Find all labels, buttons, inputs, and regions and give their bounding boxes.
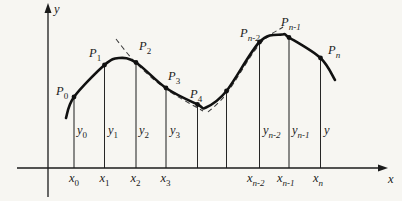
curve-point-dot — [287, 35, 292, 40]
curve-point-dot — [72, 95, 77, 100]
point-label-p_n: Pn — [327, 43, 341, 60]
x-axis-arrow-icon — [378, 165, 388, 172]
curve-point-dot — [164, 86, 169, 91]
ordinate-label-y: y — [322, 123, 330, 137]
point-label-p_n-2: Pn-2 — [239, 26, 260, 43]
curve-point-dot — [102, 63, 107, 68]
curve-point-dot — [224, 89, 229, 94]
x-axis-label: x — [387, 172, 394, 186]
ordinate-label-y_n-1: yn-1 — [290, 123, 310, 140]
function-curve — [66, 34, 335, 118]
x-tick-label-x_n-1: xn-1 — [276, 171, 295, 188]
point-label-p_1: P1 — [88, 46, 101, 63]
y-axis-label: y — [52, 2, 60, 16]
point-label-p_3: P3 — [167, 69, 181, 86]
x-tick-label-x_3: x3 — [160, 171, 172, 188]
curve-point-dot — [134, 60, 139, 65]
x-tick-label-x_0: x0 — [68, 171, 80, 188]
curve-point-dot — [318, 56, 323, 61]
ordinate-label-y_n-2: yn-2 — [261, 123, 281, 140]
x-tick-label-x_1: x1 — [99, 171, 110, 188]
y-axis-arrow-icon — [45, 3, 52, 13]
point-label-p_n-1: Pn-1 — [280, 15, 301, 32]
textbook-figure-page: y x P0P1P2P3P4Pn-2Pn-1Pny0y1y2y3yn-2yn-1… — [0, 0, 402, 201]
x-tick-label-x_n-2: xn-2 — [246, 171, 265, 188]
curve-subdivision-figure: y x P0P1P2P3P4Pn-2Pn-1Pny0y1y2y3yn-2yn-1… — [0, 0, 402, 201]
ordinate-label-y_2: y2 — [137, 123, 149, 140]
ordinate-label-y_3: y3 — [168, 123, 181, 140]
ordinate-label-y_1: y1 — [106, 123, 118, 140]
point-label-p_0: P0 — [55, 84, 69, 101]
x-tick-label-x_n: xn — [312, 171, 324, 188]
x-tick-label-x_2: x2 — [130, 171, 141, 188]
point-label-p_2: P2 — [138, 39, 151, 56]
ordinate-label-y_0: y0 — [75, 123, 88, 140]
